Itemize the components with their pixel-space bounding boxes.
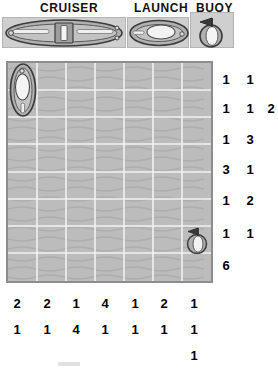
- col-clue-3-0: 4: [98, 296, 112, 311]
- col-clue-6-2: 1: [187, 348, 201, 363]
- col-clue-1-1: 1: [40, 322, 54, 337]
- column-clue-area: 2 2 1 4 1 2 1 1 1 4 1 1 1 1 1: [0, 0, 278, 369]
- col-clue-0-1: 1: [10, 322, 24, 337]
- col-clue-1-0: 2: [40, 296, 54, 311]
- print-artifact: [58, 362, 80, 366]
- col-clue-2-1: 4: [69, 322, 83, 337]
- col-clue-0-0: 2: [10, 296, 24, 311]
- col-clue-4-0: 1: [128, 296, 142, 311]
- col-clue-4-1: 1: [128, 322, 142, 337]
- col-clue-5-1: 1: [157, 322, 171, 337]
- col-clue-2-0: 1: [69, 296, 83, 311]
- col-clue-3-1: 1: [98, 322, 112, 337]
- col-clue-5-0: 2: [157, 296, 171, 311]
- col-clue-6-1: 1: [187, 322, 201, 337]
- col-clue-6-0: 1: [187, 296, 201, 311]
